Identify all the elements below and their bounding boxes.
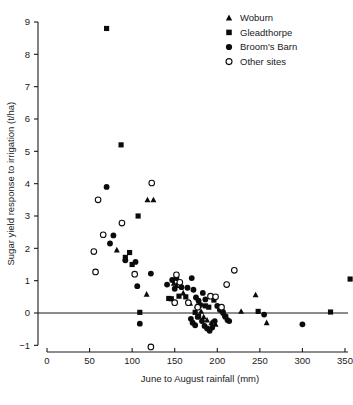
legend-marker-filled-square: [226, 30, 232, 36]
data-point: [212, 318, 218, 324]
data-point: [189, 275, 195, 281]
data-point: [150, 197, 156, 203]
x-tick-label: 100: [124, 355, 140, 366]
data-point: [191, 287, 197, 293]
data-point: [137, 321, 143, 327]
data-point: [133, 259, 139, 265]
data-point: [195, 304, 201, 310]
data-point: [148, 344, 154, 350]
data-point: [114, 247, 120, 253]
x-tick-label: 150: [167, 355, 183, 366]
axis-titles: June to August rainfall (mm)Sugar yield …: [5, 102, 259, 384]
data-point: [172, 300, 178, 306]
y-tick-label: 5: [25, 146, 30, 157]
data-point: [145, 197, 151, 203]
data-point: [95, 197, 101, 203]
data-point: [93, 269, 99, 275]
y-tick-label: 8: [25, 49, 30, 60]
data-point: [176, 294, 181, 299]
data-point: [192, 322, 198, 328]
data-point: [136, 213, 141, 218]
data-point: [172, 286, 178, 292]
data-point: [137, 310, 142, 315]
y-tick-label: 9: [25, 16, 30, 27]
data-point: [104, 184, 110, 190]
data-point: [200, 290, 206, 296]
legend-label: Broom's Barn: [240, 41, 297, 52]
data-point: [100, 232, 106, 238]
y-tick-label: 3: [25, 210, 30, 221]
y-tick-label: 6: [25, 113, 30, 124]
data-point: [238, 308, 244, 314]
x-tick-label: 250: [252, 355, 268, 366]
data-point: [186, 300, 192, 306]
y-tick-label: 1: [25, 275, 30, 286]
data-point: [174, 272, 180, 278]
data-point: [224, 282, 230, 288]
legend-label: Other sites: [240, 56, 286, 67]
data-point: [134, 283, 140, 289]
data-point: [206, 305, 211, 310]
data-point: [232, 268, 238, 274]
data-point: [219, 304, 225, 310]
data-point: [328, 309, 333, 314]
y-tick-label: 4: [25, 178, 30, 189]
data-point: [122, 257, 128, 263]
data-point: [148, 271, 154, 277]
series-broom-s-barn: [104, 184, 306, 334]
axes: −10123456789050100150200250300350: [19, 16, 353, 366]
scatter-plot-figure: −10123456789050100150200250300350 Woburn…: [0, 0, 353, 405]
y-tick-label: 2: [25, 243, 30, 254]
x-tick-label: 300: [294, 355, 310, 366]
data-point: [348, 276, 353, 281]
data-point: [91, 249, 97, 255]
data-point: [195, 314, 201, 320]
y-axis-title: Sugar yield response to irrigation (t/ha…: [5, 102, 16, 266]
data-point: [264, 320, 270, 326]
y-tick-label: 0: [25, 307, 30, 318]
data-point: [118, 142, 123, 147]
data-point: [110, 232, 116, 238]
x-tick-label: 350: [337, 355, 353, 366]
legend-marker-filled-triangle: [226, 14, 232, 20]
data-point: [164, 282, 170, 288]
data-point: [253, 292, 259, 298]
x-tick-label: 0: [44, 355, 49, 366]
x-axis-title: June to August rainfall (mm): [141, 373, 259, 384]
data-point: [300, 321, 306, 327]
data-point: [107, 241, 113, 247]
data-markers: [91, 26, 353, 350]
x-tick-label: 200: [209, 355, 225, 366]
data-point: [213, 294, 219, 300]
data-point: [185, 285, 191, 291]
data-point: [144, 291, 150, 297]
legend-marker-filled-circle: [226, 44, 232, 50]
data-point: [261, 312, 267, 318]
legend-label: Gleadthorpe: [240, 27, 292, 38]
data-point: [127, 250, 132, 255]
data-point: [177, 279, 183, 285]
y-tick-label: 7: [25, 81, 30, 92]
data-point: [226, 318, 232, 324]
data-point: [149, 180, 155, 186]
data-point: [132, 271, 138, 277]
data-point: [104, 26, 109, 31]
data-point: [183, 294, 188, 299]
data-point: [209, 325, 215, 331]
data-point: [256, 309, 261, 314]
chart-legend: WoburnGleadthorpeBroom's BarnOther sites: [226, 12, 297, 67]
data-point: [119, 220, 125, 226]
x-tick-label: 50: [84, 355, 95, 366]
y-tick-label: −1: [19, 340, 30, 351]
legend-label: Woburn: [240, 12, 273, 23]
legend-marker-open-circle: [226, 59, 232, 65]
plot-canvas: −10123456789050100150200250300350 Woburn…: [0, 0, 353, 405]
series-gleadthorpe: [104, 26, 353, 320]
